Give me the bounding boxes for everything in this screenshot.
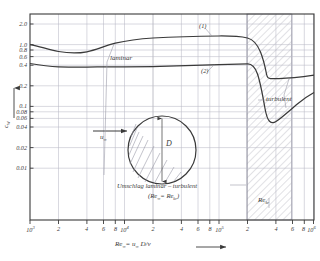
x-tick-1e3: 103 <box>22 225 39 233</box>
transition-band-re-kr <box>247 14 292 220</box>
transition-caption-line2: (Re∞= Rekr) <box>148 192 179 201</box>
x-tick-1e3-exp: 3 <box>32 225 34 230</box>
x-tick-4b: 4 <box>175 225 188 232</box>
x-tick-4c: 4 <box>270 225 283 232</box>
y-axis-title: cW <box>2 121 11 128</box>
annotation-velocity: u∞ <box>100 133 107 142</box>
x-axis-title-eq: = u <box>126 240 136 248</box>
caption-open: (Re <box>148 192 157 199</box>
y-tick-0_4: 0.4 <box>8 61 27 68</box>
x-tick-1e6: 106 <box>303 225 320 233</box>
x-tick-1e4: 104 <box>116 225 133 233</box>
x-tick-1e4-exp: 4 <box>126 225 128 230</box>
caption-mid: = Re <box>160 192 173 199</box>
x-axis-ticks <box>30 220 314 224</box>
y-tick-0_02: 0.02 <box>5 144 27 151</box>
x-tick-4a: 4 <box>80 225 93 232</box>
x-axis-title: Re∞= u∞ D/ν <box>115 240 151 249</box>
x-tick-2c: 2 <box>241 225 254 232</box>
annotation-laminar: laminar <box>110 54 132 62</box>
y-tick-2_0: 2.0 <box>8 20 27 27</box>
annotation-curve-1: (1) <box>199 22 206 29</box>
annotation-curve-2: (2) <box>201 67 208 74</box>
annotation-turbulent: turbulent <box>266 95 292 103</box>
y-axis-title-sub: W <box>6 121 11 125</box>
transition-caption-line1: Umschlag laminar – turbulent <box>117 182 197 189</box>
x-axis-title-tail: D/ν <box>139 240 151 248</box>
x-tick-2b: 2 <box>147 225 160 232</box>
y-tick-0_01: 0.01 <box>5 164 27 171</box>
x-tick-1e5: 105 <box>211 225 228 233</box>
x-tick-2a: 2 <box>52 225 65 232</box>
x-tick-1e6-exp: 6 <box>313 225 315 230</box>
y-axis-title-text: c <box>2 125 10 128</box>
annotation-re-kr-sub: kr <box>265 200 269 205</box>
annotation-diameter: D <box>166 139 172 148</box>
y-tick-0_6: 0.6 <box>8 53 27 60</box>
drag-coefficient-diagram <box>0 0 320 261</box>
x-tick-1e5-exp: 5 <box>221 225 223 230</box>
annotation-velocity-sub: ∞ <box>104 137 107 142</box>
caption-close: ) <box>177 192 179 199</box>
annotation-re-kr: Rekr <box>258 196 269 205</box>
y-tick-0_2: 0.2 <box>8 82 27 89</box>
